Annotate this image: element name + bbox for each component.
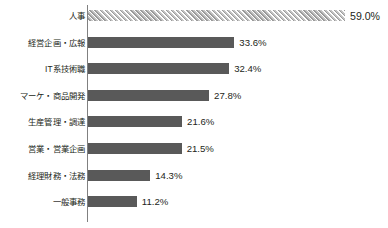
bar	[88, 116, 182, 127]
bar-value-label: 27.8%	[214, 90, 241, 102]
bar-value-label: 11.2%	[142, 196, 169, 208]
category-label: 経理財務・法務	[0, 170, 85, 182]
bar	[88, 143, 182, 154]
bar	[88, 10, 345, 21]
bar-value-label: 21.6%	[187, 116, 214, 128]
category-label: 営業・営業企画	[0, 143, 85, 155]
bar-value-label: 59.0%	[350, 10, 380, 22]
bar-row: 営業・営業企画21.5%	[0, 143, 388, 167]
bar-value-label: 14.3%	[155, 170, 182, 182]
bar-row: 人事59.0%	[0, 10, 388, 34]
category-label: 人事	[0, 10, 85, 22]
category-label: 一般事務	[0, 196, 85, 208]
bar-value-label: 32.4%	[234, 63, 261, 75]
bar	[88, 170, 150, 181]
bar-chart: 人事59.0%経営企画・広報33.6%IT系技術職32.4%マーケ・商品開発27…	[0, 0, 388, 228]
bar	[88, 63, 229, 74]
bar-value-label: 33.6%	[239, 37, 266, 49]
bar-row: 生産管理・調達21.6%	[0, 116, 388, 140]
category-label: IT系技術職	[0, 63, 85, 75]
category-label: マーケ・商品開発	[0, 90, 85, 102]
bar-row: IT系技術職32.4%	[0, 63, 388, 87]
category-label: 生産管理・調達	[0, 116, 85, 128]
bar	[88, 196, 137, 207]
bar	[88, 90, 209, 101]
bar-row: 一般事務11.2%	[0, 196, 388, 220]
bar	[88, 37, 234, 48]
bar-row: マーケ・商品開発27.8%	[0, 90, 388, 114]
bar-row: 経理財務・法務14.3%	[0, 170, 388, 194]
category-label: 経営企画・広報	[0, 37, 85, 49]
bar-row: 経営企画・広報33.6%	[0, 37, 388, 61]
bar-value-label: 21.5%	[187, 143, 214, 155]
